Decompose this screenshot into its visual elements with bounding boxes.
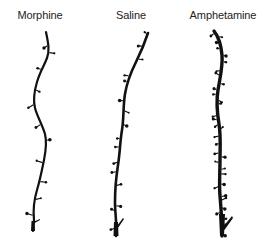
dendrite-saline bbox=[110, 31, 148, 236]
dendrite-morphine bbox=[25, 32, 55, 231]
dendrite-amphetamine bbox=[210, 31, 233, 237]
dendrite-figure bbox=[0, 0, 260, 245]
